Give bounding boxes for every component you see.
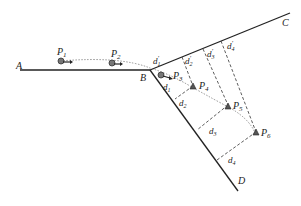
label-B: B	[140, 72, 146, 83]
label-D: D	[237, 175, 246, 186]
label-P5: P5	[232, 100, 243, 113]
point-P4	[190, 83, 196, 89]
label-P6: P6	[260, 127, 271, 140]
label-d4-prime: d4′	[227, 39, 235, 52]
label-d3: d3	[209, 126, 217, 137]
dash-d4-upper	[221, 41, 256, 132]
label-d2: d2	[179, 98, 187, 109]
label-P3: P3	[172, 70, 183, 83]
label-d3-prime: d3′	[207, 47, 215, 60]
point-P3	[158, 72, 173, 80]
label-d2-prime: d2′	[185, 54, 193, 67]
label-P1: P1	[56, 46, 67, 59]
label-P2: P2	[110, 48, 121, 61]
label-d4: d4	[228, 155, 236, 166]
label-d1-prime: d1′	[153, 54, 161, 67]
label-d1: d1	[163, 82, 171, 93]
line-BC	[150, 13, 290, 70]
label-C: C	[282, 17, 289, 28]
dash-d4-lower	[217, 132, 256, 160]
label-A: A	[15, 60, 23, 71]
road-junction-diagram: A B C D P1 P2 P3 P4 P5 P6 d1′ d2′ d3′ d4…	[0, 0, 301, 206]
